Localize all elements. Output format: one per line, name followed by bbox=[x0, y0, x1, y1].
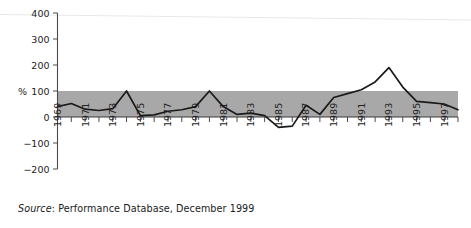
x-tick-label: 1977 bbox=[162, 103, 173, 127]
x-tick-label: 1973 bbox=[107, 103, 118, 127]
y-tick-label: 300 bbox=[31, 34, 49, 45]
source-text: : Performance Database, December 1999 bbox=[52, 203, 255, 214]
y-tick-label: 0 bbox=[43, 112, 49, 123]
plot-top-artifact bbox=[0, 15, 471, 21]
x-tick-label: 1971 bbox=[80, 103, 91, 127]
source-label: Source bbox=[18, 203, 52, 214]
y-tick-label: 200 bbox=[31, 60, 49, 71]
line-chart: −200−1000100200300400%196919711973197519… bbox=[0, 0, 471, 196]
x-tick-label: 1989 bbox=[328, 103, 339, 127]
y-tick-label: 400 bbox=[31, 8, 49, 19]
x-tick-label: 1983 bbox=[245, 103, 256, 127]
y-tick-label: 100 bbox=[31, 86, 49, 97]
y-axis-unit-label: % bbox=[18, 86, 27, 97]
source-note: Source: Performance Database, December 1… bbox=[18, 203, 255, 214]
x-tick-label: 1991 bbox=[356, 103, 367, 127]
x-tick-label: 1995 bbox=[411, 103, 422, 127]
y-tick-label: −200 bbox=[23, 164, 49, 175]
figure-container: −200−1000100200300400%196919711973197519… bbox=[0, 0, 471, 228]
x-tick-label: 1993 bbox=[383, 103, 394, 127]
y-tick-label: −100 bbox=[23, 138, 49, 149]
